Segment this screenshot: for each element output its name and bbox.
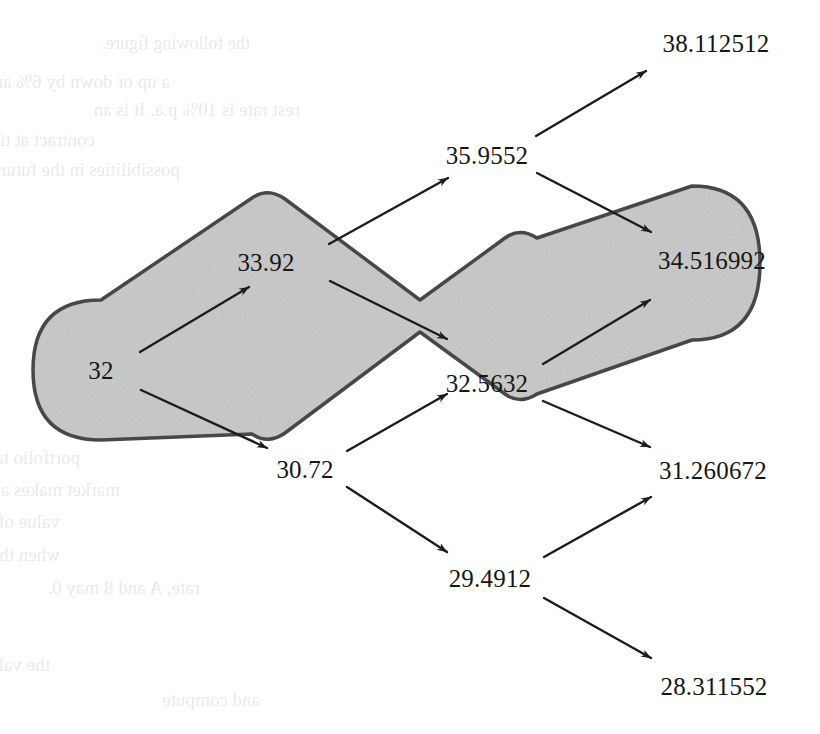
node-label-n3dd: 28.311552 [660,674,767,699]
node-label-n2u: 35.9552 [446,143,529,168]
binomial-lattice-figure: the following figure.a up or down by 6% … [0,0,820,734]
edge-32.5632-to-31.260672 [543,401,650,447]
edge-29.4912-to-28.311552 [544,598,651,658]
node-label-n3du: 31.260672 [659,458,767,483]
lattice-canvas [0,0,820,734]
edge-35.9552-to-38.112512 [536,71,646,136]
node-label-n1d: 30.72 [276,457,333,482]
node-label-n0: 32 [88,358,113,383]
edge-30.72-to-29.4912 [347,487,447,552]
node-label-n3ud: 34.516992 [658,248,766,273]
node-label-n2m: 32.5632 [446,371,529,396]
edge-30.72-to-32.5632 [347,394,447,451]
edge-33.92-to-35.9552 [329,178,448,244]
edge-29.4912-to-31.260672 [544,497,651,557]
node-label-n2d: 29.4912 [449,566,532,591]
node-label-n3uu: 38.112512 [662,31,769,56]
node-label-n1u: 33.92 [237,250,294,275]
